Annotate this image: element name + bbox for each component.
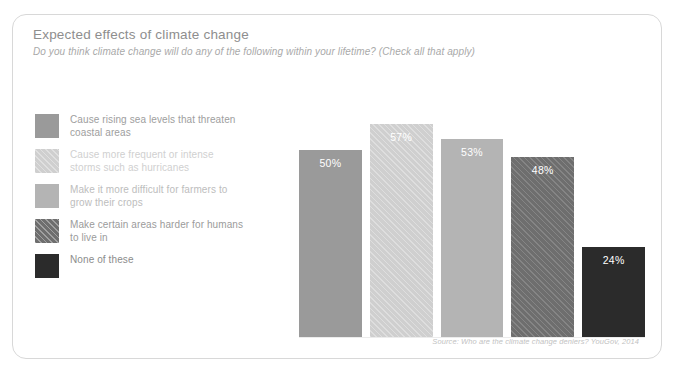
bar[interactable]: 24%	[582, 247, 645, 337]
legend-item-label: Cause rising sea levels that threaten co…	[70, 113, 245, 139]
legend-swatch-icon	[35, 219, 59, 243]
legend-item[interactable]: None of these	[35, 253, 245, 279]
legend-item-label: Make it more difficult for farmers to gr…	[70, 183, 245, 209]
legend-swatch-icon	[35, 114, 59, 138]
bar-column: 48%	[511, 75, 574, 337]
bar[interactable]: 48%	[511, 157, 574, 337]
bar[interactable]: 57%	[370, 124, 433, 337]
page-title: Expected effects of climate change	[33, 27, 633, 42]
bar[interactable]: 53%	[441, 139, 504, 337]
bar-column: 57%	[370, 75, 433, 337]
chart-plot-area: 50%57%53%48%24%	[299, 75, 645, 337]
bar-value-label: 50%	[299, 157, 362, 169]
legend-swatch-icon	[35, 184, 59, 208]
legend-item-label: Make certain areas harder for humans to …	[70, 218, 245, 244]
bar-value-label: 48%	[511, 164, 574, 176]
bar[interactable]: 50%	[299, 150, 362, 337]
source-note: Source: Who are the climate change denie…	[432, 337, 639, 346]
bar-series: 50%57%53%48%24%	[299, 75, 645, 337]
chart-legend: Cause rising sea levels that threaten co…	[35, 113, 245, 288]
legend-item-label: None of these	[70, 253, 134, 267]
legend-item-label: Cause more frequent or intense storms su…	[70, 148, 245, 174]
bar-column: 24%	[582, 75, 645, 337]
bar-value-label: 53%	[441, 146, 504, 158]
legend-swatch-icon	[35, 149, 59, 173]
legend-item[interactable]: Make it more difficult for farmers to gr…	[35, 183, 245, 209]
bar-column: 53%	[441, 75, 504, 337]
bar-column: 50%	[299, 75, 362, 337]
legend-item[interactable]: Cause more frequent or intense storms su…	[35, 148, 245, 174]
bar-value-label: 57%	[370, 131, 433, 143]
bar-value-label: 24%	[582, 254, 645, 266]
chart-subtitle: Do you think climate change will do any …	[33, 46, 633, 57]
legend-item[interactable]: Make certain areas harder for humans to …	[35, 218, 245, 244]
legend-item[interactable]: Cause rising sea levels that threaten co…	[35, 113, 245, 139]
chart-card: Expected effects of climate change Do yo…	[12, 14, 662, 359]
chart-header: Expected effects of climate change Do yo…	[33, 27, 633, 57]
legend-swatch-icon	[35, 254, 59, 278]
